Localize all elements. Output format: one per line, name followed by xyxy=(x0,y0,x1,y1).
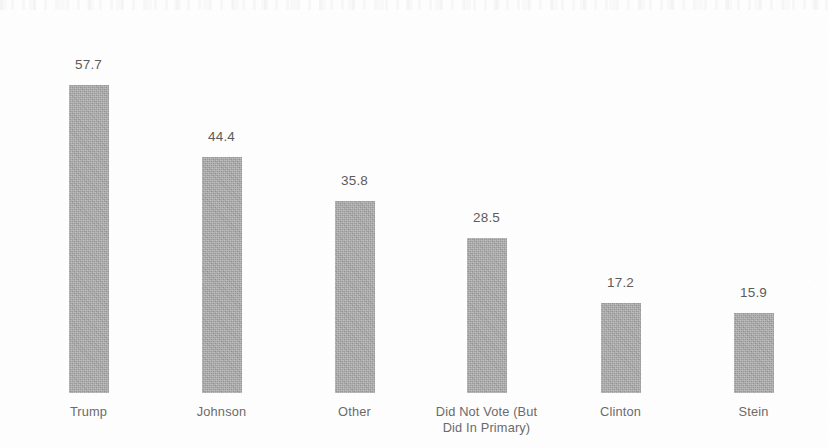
bar-stein[interactable] xyxy=(734,313,774,393)
bar-value-label: 35.8 xyxy=(341,174,368,188)
bar-value-label: 57.7 xyxy=(75,58,102,72)
bar-group: 57.7 Trump xyxy=(22,0,155,448)
bar-group: 44.4 Johnson xyxy=(155,0,288,448)
bar-value-label: 28.5 xyxy=(473,211,500,225)
bar-value-label: 17.2 xyxy=(607,276,634,290)
category-label-other: Other xyxy=(291,404,419,420)
bar-value-label: 44.4 xyxy=(208,130,235,144)
category-label-trump: Trump xyxy=(25,404,153,420)
category-label-did-not-vote: Did Not Vote (But Did In Primary) xyxy=(423,404,551,436)
category-label-johnson: Johnson xyxy=(158,404,286,420)
bar-did-not-vote[interactable] xyxy=(467,238,507,393)
bar-other[interactable] xyxy=(335,201,375,393)
bar-johnson[interactable] xyxy=(202,157,242,393)
category-label-line1: Other xyxy=(338,404,371,419)
bar-group: 28.5 Did Not Vote (But Did In Primary) xyxy=(420,0,553,448)
category-label-clinton: Clinton xyxy=(557,404,685,420)
category-label-line1: Stein xyxy=(739,404,769,419)
plot-area: 57.7 Trump 44.4 Johnson 35.8 Other 28.5 xyxy=(0,0,828,448)
category-label-line1: Johnson xyxy=(197,404,246,419)
bar-group: 15.9 Stein xyxy=(687,0,820,448)
bar-group: 35.8 Other xyxy=(288,0,421,448)
bar-value-label: 15.9 xyxy=(740,286,767,300)
bar-trump[interactable] xyxy=(69,85,109,393)
category-label-line1: Trump xyxy=(70,404,107,419)
category-label-line1: Clinton xyxy=(600,404,641,419)
bar-chart: 57.7 Trump 44.4 Johnson 35.8 Other 28.5 xyxy=(0,0,828,448)
category-label-stein: Stein xyxy=(690,404,818,420)
bar-group: 17.2 Clinton xyxy=(554,0,687,448)
category-label-line1: Did Not Vote (But xyxy=(436,404,537,419)
category-label-line2: Did In Primary) xyxy=(423,420,551,436)
bar-clinton[interactable] xyxy=(601,303,641,393)
